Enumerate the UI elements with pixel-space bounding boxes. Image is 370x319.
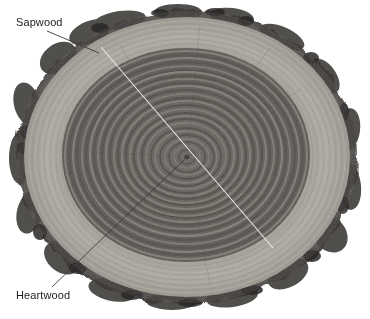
specimen-image [0, 0, 370, 319]
sapwood-label: Sapwood [16, 16, 63, 29]
tree-cross-section-figure: Sapwood Heartwood [0, 0, 370, 319]
heartwood-label: Heartwood [16, 289, 70, 302]
